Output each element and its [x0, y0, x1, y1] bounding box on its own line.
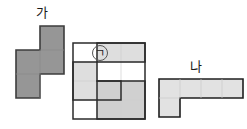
piece-na-label: 나 [190, 60, 202, 73]
grid-cell-c1r2 [97, 81, 121, 100]
piece-ga-label: 가 [36, 6, 48, 19]
shape-comparison-figure: 가 나 [0, 0, 247, 129]
grid-cell-c2r2 [121, 81, 145, 100]
piece-ga [16, 26, 64, 98]
grid-cell-c0r1 [73, 62, 97, 81]
grid-cell-c2r3 [121, 100, 145, 119]
grid-cell-c0r2 [73, 81, 97, 100]
grid-cell-c1r3 [97, 100, 121, 119]
piece-na [159, 79, 243, 117]
grid-cell-c2r0 [121, 43, 145, 62]
circled-marker-glyph: ㄱ [95, 47, 105, 59]
grid-middle: ㄱ [73, 43, 145, 119]
